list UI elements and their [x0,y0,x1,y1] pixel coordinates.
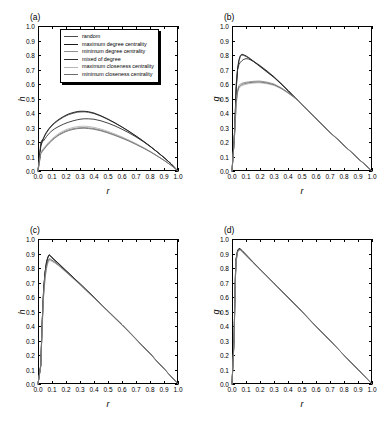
curve-random [38,255,178,384]
legend-swatch [64,44,78,45]
legend-swatch [64,51,78,52]
x-tick-label: 0.6 [117,173,126,180]
x-tick-label: 1.0 [367,173,376,180]
x-tick-label: 0.9 [353,173,362,180]
curve-minimum-degree-centrality [232,250,372,384]
panel-d: (d)0.00.00.10.10.20.20.30.30.40.40.50.50… [194,213,388,426]
legend-item: random [64,33,154,41]
x-axis-label-d: r [232,399,372,409]
legend-label: random [82,33,100,41]
plot-area-d: 0.00.00.10.10.20.20.30.30.40.40.50.50.60… [232,239,372,384]
x-tick-mark-top [178,239,179,242]
curve-layer-c [38,239,178,384]
curve-minimum-degree-centrality [38,260,178,384]
legend-label: maximum degree centrality [82,41,147,49]
x-tick-label: 0.5 [297,386,306,393]
x-axis-label-a: r [38,186,178,196]
legend-swatch [64,59,78,60]
y-axis-label-a: h [16,26,28,171]
y-axis-label-text: h [17,96,27,101]
curve-minimum-closeness-centrality [38,259,178,384]
x-tick-label: 0.1 [47,386,56,393]
x-tick-label: 0.5 [103,386,112,393]
curve-maximum-degree-centrality [38,255,178,384]
curve-mixed-of-degree [38,255,178,384]
plot-area-b: 0.00.00.10.10.20.20.30.30.40.40.50.50.60… [232,26,372,171]
plot-area-c: 0.00.00.10.10.20.20.30.30.40.40.50.50.60… [38,239,178,384]
x-tick-label: 0.1 [47,173,56,180]
legend-label: minimum degree centrality [82,48,145,56]
x-tick-label: 0.4 [283,386,292,393]
x-tick-label: 0.3 [269,386,278,393]
x-tick-label: 0.9 [159,386,168,393]
curve-maximum-closeness-centrality [232,83,372,171]
legend-swatch [64,36,78,37]
curve-random [232,249,372,384]
x-tick-label: 0.7 [131,386,140,393]
x-tick-label: 0.1 [241,173,250,180]
x-tick-label: 0.4 [89,386,98,393]
x-tick-label: 0.4 [283,173,292,180]
x-axis-label-b: r [232,186,372,196]
curve-minimum-closeness-centrality [232,249,372,384]
y-axis-label-c: h [16,239,28,384]
panel-a: (a)0.00.00.10.10.20.20.30.30.40.40.50.50… [0,0,194,213]
y-tick-mark [38,384,41,385]
x-tick-label: 0.8 [339,173,348,180]
legend-label: maximum closeness centrality [82,63,154,71]
curve-minimum-degree-centrality [232,81,372,171]
x-tick-label: 0.6 [311,386,320,393]
curve-minimum-closeness-centrality [38,128,178,171]
x-tick-label: 0.0 [227,386,236,393]
curve-mixed-of-degree [232,249,372,384]
x-tick-label: 0.0 [227,173,236,180]
y-axis-label-d: g [210,239,222,384]
legend-swatch [64,74,78,75]
x-tick-mark-top [372,26,373,29]
x-tick-label: 0.7 [325,173,334,180]
x-tick-mark-top [372,239,373,242]
panel-label-b: (b) [224,12,234,22]
panel-b: (b)0.00.00.10.10.20.20.30.30.40.40.50.50… [194,0,388,213]
x-tick-label: 1.0 [173,173,182,180]
x-tick-label: 0.8 [145,386,154,393]
panel-label-d: (d) [224,225,234,235]
legend-item: maximum degree centrality [64,41,154,49]
x-tick-label: 1.0 [173,386,182,393]
curve-mixed-of-degree [38,119,178,171]
y-axis-label-b: g [210,26,222,171]
legend-label: minimum closeness centrality [82,71,152,79]
x-tick-label: 0.8 [339,386,348,393]
x-tick-label: 0.4 [89,173,98,180]
curve-minimum-degree-centrality [38,128,178,172]
x-tick-label: 0.1 [241,386,250,393]
x-tick-label: 0.2 [61,173,70,180]
curve-layer-b [232,26,372,171]
curve-mixed-of-degree [232,59,372,171]
x-tick-label: 0.3 [75,386,84,393]
legend-label: mixed of degree [82,56,121,64]
x-tick-label: 0.2 [61,386,70,393]
curve-random [38,112,178,171]
curve-maximum-closeness-centrality [38,261,178,384]
figure-root: (a)0.00.00.10.10.20.20.30.30.40.40.50.50… [0,0,388,427]
panel-label-a: (a) [30,12,40,22]
x-tick-label: 0.9 [353,386,362,393]
curve-maximum-degree-centrality [232,54,372,171]
legend: randommaximum degree centralityminimum d… [60,29,159,83]
legend-item: maximum closeness centrality [64,63,154,71]
x-tick-label: 0.5 [103,173,112,180]
y-axis-label-text: g [211,96,221,101]
legend-item: minimum degree centrality [64,48,154,56]
y-axis-label-text: g [211,309,221,314]
x-tick-label: 0.7 [131,173,140,180]
x-tick-label: 0.5 [297,173,306,180]
y-tick-mark [232,384,235,385]
x-tick-label: 0.9 [159,173,168,180]
y-axis-label-text: h [17,309,27,314]
legend-item: mixed of degree [64,56,154,64]
x-tick-label: 0.2 [255,173,264,180]
curve-maximum-degree-centrality [232,248,372,384]
x-tick-label: 0.6 [117,386,126,393]
legend-swatch [64,67,78,68]
